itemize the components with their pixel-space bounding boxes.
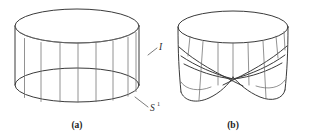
fiber-label-leader [148,48,157,55]
band-top-ellipse [178,11,288,43]
band-right-rim-curve [256,80,285,88]
band-bottom-left-arc [181,77,233,101]
band-twist-crossing-left [181,56,233,79]
band-bottom-right-arc [233,77,285,99]
base-circle-label-leader [135,97,148,107]
base-circle-label-superscript: 1 [157,100,160,107]
panel-a-cylinder: (a) [15,9,139,131]
base-circle-label-S: S [150,103,155,113]
fiber-label-I: I [158,42,163,52]
band-left-rim-curve [181,82,211,90]
panel-b-caption: (b) [227,120,239,131]
figure-container: (a) I S 1 [0,0,311,138]
band-left-edge [178,27,181,92]
cylinder-top-back-arc [15,26,139,43]
panel-a-caption: (a) [71,120,82,131]
panel-b-twisted-band: (b) [178,11,288,131]
band-twist-crossing-right [233,55,285,79]
figure-canvas: (a) I S 1 [0,0,311,138]
cylinder-bottom-ellipse [15,68,139,102]
band-right-edge [285,27,288,90]
